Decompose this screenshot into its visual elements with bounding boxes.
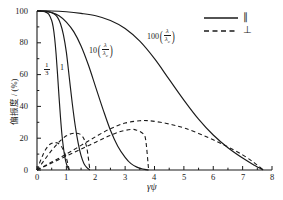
coefficient-ten: 10	[89, 47, 97, 55]
fraction-denominator: λc	[102, 50, 109, 59]
y-tick-label-80: 80	[6, 38, 28, 47]
y-tick-label-20: 20	[6, 134, 28, 143]
x-tick-label-4: 4	[148, 173, 160, 182]
x-tick-label-0: 0	[31, 173, 43, 182]
x-tick-label-5: 5	[178, 173, 190, 182]
y-axis-label: 偏振度 / (%)	[10, 79, 19, 125]
coefficient-hundred: 100	[147, 33, 159, 41]
curve-perpendicular-100	[37, 120, 263, 170]
curve-label-one: 1	[60, 64, 64, 72]
x-tick-label-3: 3	[119, 173, 131, 182]
curve-parallel-1-3	[37, 11, 69, 170]
x-axis-label: γψ	[147, 183, 157, 193]
x-tick-label-8: 8	[266, 173, 278, 182]
x-tick-label-1: 1	[60, 173, 72, 182]
plot-canvas	[0, 0, 283, 200]
y-tick-label-60: 60	[6, 70, 28, 79]
y-tick-label-100: 100	[6, 7, 28, 16]
curve-label-ten-lambda: 10(λλc)	[89, 42, 114, 59]
y-tick-label-0: 0	[6, 166, 28, 175]
x-tick-label-6: 6	[207, 173, 219, 182]
legend-swatches	[204, 18, 238, 31]
curve-label-hundred-lambda: 100(λλc)	[147, 28, 176, 45]
x-tick-label-7: 7	[237, 173, 249, 182]
left-paren: (	[160, 30, 163, 44]
fraction-lambda-ratio: λλc	[102, 42, 109, 59]
curve-label-one-third: 1 3	[44, 62, 50, 78]
legend-label-perpendicular: ⊥	[243, 25, 252, 35]
fraction-denominator: 3	[44, 70, 50, 77]
right-paren: )	[172, 30, 175, 44]
fraction-one-third: 1 3	[44, 62, 50, 78]
right-paren: )	[110, 44, 113, 58]
x-tick-label-2: 2	[89, 173, 101, 182]
fraction-denominator: λc	[164, 36, 171, 45]
polarization-degree-chart: 100 80 60 40 20 0 0 1 2 3 4 5 6 7 8 偏振度 …	[0, 0, 283, 200]
fraction-lambda-ratio: λλc	[164, 28, 171, 45]
legend-label-parallel: ∥	[243, 12, 248, 22]
left-paren: (	[98, 44, 101, 58]
